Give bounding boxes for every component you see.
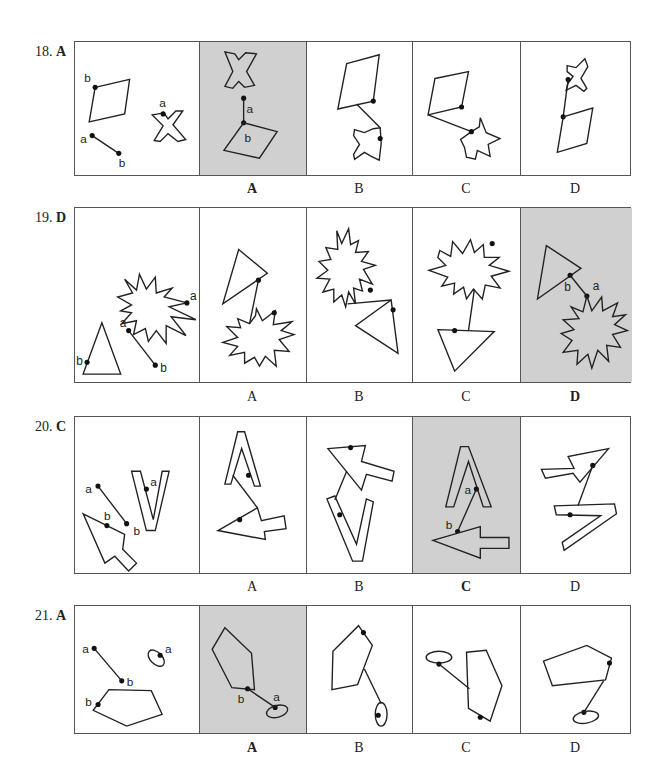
answer-key: A <box>56 608 66 623</box>
option-c-label: C <box>446 389 486 405</box>
question-number: 21. <box>35 608 53 623</box>
pentagon-shape <box>212 628 254 690</box>
question-number: 18. <box>35 44 53 59</box>
option-c-panel[interactable] <box>413 606 521 733</box>
stem-figure: a b a b <box>75 417 199 573</box>
option-a-panel[interactable] <box>200 417 307 573</box>
svg-text:b: b <box>84 71 91 85</box>
x-shape <box>225 52 257 88</box>
question-18-row: b a b a a b <box>74 41 631 176</box>
starburst-shape <box>561 296 627 368</box>
v-shape <box>554 504 616 550</box>
option-d-panel[interactable] <box>521 42 632 175</box>
option-a-figure <box>200 208 306 382</box>
option-c-panel[interactable]: a b <box>413 417 521 573</box>
stem-figure: a b a b <box>75 606 199 733</box>
answer-key: D <box>56 210 66 225</box>
answer-key: A <box>56 44 66 59</box>
option-a-figure: a b <box>200 42 306 175</box>
starburst-shape <box>223 309 294 366</box>
option-a-panel[interactable]: b a <box>200 606 307 733</box>
svg-text:b: b <box>238 692 245 706</box>
option-d-panel[interactable]: b a <box>521 208 632 382</box>
svg-text:a: a <box>150 475 157 489</box>
lambda-shape <box>225 432 261 486</box>
v-shape <box>327 496 373 561</box>
svg-text:b: b <box>446 518 453 532</box>
option-a-label: A <box>232 579 272 595</box>
lambda-shape <box>446 447 491 507</box>
svg-text:a: a <box>85 482 92 496</box>
option-b-panel[interactable] <box>307 208 413 382</box>
option-b-figure <box>307 42 412 175</box>
pentagon-shape <box>93 690 162 726</box>
stem-panel: a b a b <box>75 606 200 733</box>
svg-text:a: a <box>159 96 166 110</box>
svg-text:b: b <box>245 131 252 145</box>
svg-text:a: a <box>190 289 197 303</box>
option-c-panel[interactable] <box>413 42 521 175</box>
svg-text:a: a <box>247 102 254 116</box>
option-b-figure <box>307 417 412 573</box>
option-d-panel[interactable] <box>521 606 632 733</box>
option-c-figure <box>413 208 520 382</box>
question-18-number: 18. A <box>35 44 66 60</box>
starburst-shape <box>429 240 509 299</box>
option-a-label: A <box>232 740 272 756</box>
svg-text:b: b <box>104 509 111 523</box>
option-c-label: C <box>446 579 486 595</box>
option-c-figure <box>413 42 520 175</box>
question-19-number: 19. D <box>35 210 66 226</box>
question-20-row: a b a b a <box>74 416 631 574</box>
svg-text:b: b <box>134 524 141 538</box>
triangle-shape <box>438 330 494 372</box>
option-b-label: B <box>339 389 379 405</box>
starburst-shape <box>118 274 196 343</box>
option-b-panel[interactable] <box>307 417 413 573</box>
option-b-figure <box>307 208 412 382</box>
question-number: 19. <box>35 210 53 225</box>
x-shape <box>354 128 382 161</box>
option-d-label: D <box>555 579 595 595</box>
svg-text:b: b <box>127 675 134 689</box>
stem-panel: a b a b <box>75 417 200 573</box>
question-21-row: a b a b b a <box>74 605 631 734</box>
x-shape <box>461 118 500 159</box>
option-a-label: A <box>232 181 272 197</box>
question-number: 20. <box>35 419 53 434</box>
pentagon-shape <box>467 650 502 721</box>
svg-text:a: a <box>273 690 280 704</box>
option-d-figure <box>521 606 632 733</box>
option-b-label: B <box>339 579 379 595</box>
option-d-panel[interactable] <box>521 417 632 573</box>
svg-text:b: b <box>119 156 126 170</box>
option-c-figure: a b <box>413 417 520 573</box>
arrow-shape <box>328 446 394 490</box>
svg-text:a: a <box>593 279 600 293</box>
svg-text:a: a <box>82 642 89 656</box>
option-c-panel[interactable] <box>413 208 521 382</box>
option-a-panel[interactable] <box>200 208 307 382</box>
arrow-shape <box>541 449 608 483</box>
option-d-figure: b a <box>521 208 632 382</box>
option-c-figure <box>413 606 520 733</box>
option-d-figure <box>521 42 632 175</box>
svg-text:b: b <box>160 361 167 375</box>
pentagon-shape <box>332 626 372 690</box>
option-a-figure: b a <box>200 606 306 733</box>
option-b-label: B <box>339 181 379 197</box>
question-21-number: 21. A <box>35 608 66 624</box>
svg-text:b: b <box>564 280 571 294</box>
option-b-figure <box>307 606 412 733</box>
option-a-panel[interactable]: a b <box>200 42 307 175</box>
stem-panel: b a b a <box>75 208 200 382</box>
svg-text:a: a <box>465 483 472 497</box>
stem-panel: b a b a <box>75 42 200 175</box>
svg-text:b: b <box>76 354 83 368</box>
option-a-label: A <box>232 389 272 405</box>
option-d-label: D <box>555 181 595 197</box>
x-shape <box>152 111 185 142</box>
question-20-number: 20. C <box>35 419 66 435</box>
option-b-panel[interactable] <box>307 42 413 175</box>
option-b-panel[interactable] <box>307 606 413 733</box>
